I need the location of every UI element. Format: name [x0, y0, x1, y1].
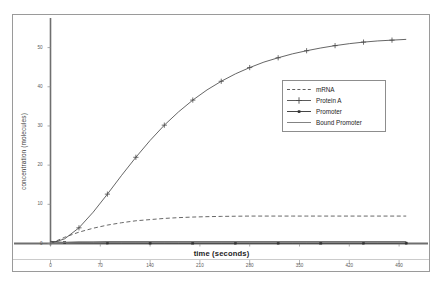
legend-label: Protein A [312, 97, 342, 104]
legend-swatch-icon [286, 95, 312, 106]
x-tick-label: 490 [387, 263, 411, 268]
legend-swatch-icon [286, 84, 312, 95]
legend-label: Promoter [312, 108, 342, 115]
series-mrna [51, 216, 407, 243]
legend-item-mrna[interactable]: mRNA [286, 84, 381, 95]
x-axis-title: time (seconds) [0, 249, 443, 258]
y-axis-title: concentration (molecules) [20, 82, 27, 222]
chart-legend: mRNAProtein APromoterBound Promoter [282, 80, 386, 132]
x-tick-label: 210 [188, 263, 212, 268]
y-tick-label: 0 [21, 241, 43, 246]
axis-layer [13, 18, 429, 264]
legend-item-promoter[interactable]: Promoter [286, 106, 381, 117]
legend-swatch-icon [286, 106, 312, 117]
legend-label: Bound Promoter [312, 119, 362, 126]
x-tick-label: 420 [337, 263, 361, 268]
series-layer [51, 38, 408, 245]
plot-canvas [0, 0, 443, 282]
legend-swatch-icon [286, 117, 312, 128]
legend-item-bound-promoter[interactable]: Bound Promoter [286, 117, 381, 128]
x-tick-label: 280 [238, 263, 262, 268]
x-tick-label: 0 [39, 263, 63, 268]
chart-figure: 01020304050 070140210280350420490 time (… [0, 0, 443, 282]
x-tick-label: 350 [288, 263, 312, 268]
y-tick-label: 50 [21, 45, 43, 50]
legend-label: mRNA [312, 86, 335, 93]
series-protein-a [51, 38, 407, 244]
x-tick-label: 140 [138, 263, 162, 268]
legend-item-protein-a[interactable]: Protein A [286, 95, 381, 106]
x-tick-label: 70 [88, 263, 112, 268]
